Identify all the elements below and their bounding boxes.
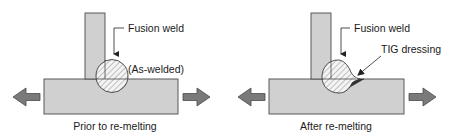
caption-after: After re-melting: [300, 120, 372, 132]
panel-after: Fusion weld TIG dressing After re-meltin…: [238, 13, 441, 132]
arrow-right-icon: [183, 88, 210, 106]
fusion-weld-leader: [341, 28, 350, 54]
tig-dressing-leader: [358, 56, 381, 75]
label-fusion-weld: Fusion weld: [128, 22, 184, 34]
diagram-canvas: Fusion weld (As-welded) Prior to re-melt…: [0, 0, 454, 138]
label-fusion-weld: Fusion weld: [354, 22, 410, 34]
panel-prior: Fusion weld (As-welded) Prior to re-melt…: [13, 13, 210, 132]
arrow-left-icon: [238, 88, 265, 106]
weld-remelting-diagram: Fusion weld (As-welded) Prior to re-melt…: [0, 0, 454, 138]
fusion-weld: [96, 60, 128, 93]
label-as-welded: (As-welded): [128, 63, 184, 75]
caption-prior: Prior to re-melting: [73, 120, 157, 132]
label-tig-dressing: TIG dressing: [381, 43, 441, 55]
fusion-weld-leader: [114, 28, 124, 54]
arrow-right-icon: [409, 88, 436, 106]
arrow-left-icon: [13, 88, 40, 106]
